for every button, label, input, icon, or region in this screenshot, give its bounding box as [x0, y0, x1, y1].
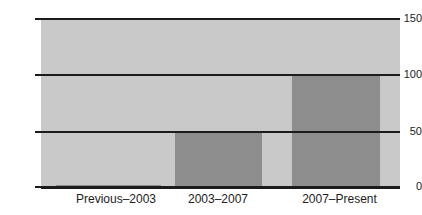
gridline-50	[41, 131, 400, 133]
xlabel-2007-present: 2007–Present	[282, 192, 397, 206]
bar-2003-2007	[175, 132, 262, 188]
ytick-mark-50	[35, 131, 41, 133]
xlabel-2003-2007: 2003–2007	[168, 192, 268, 206]
ytick-mark-100	[35, 74, 41, 76]
ytick-label-50: 50	[388, 126, 422, 137]
gridline-100	[41, 74, 400, 76]
xlabel-previous-2003: Previous–2003	[56, 192, 176, 206]
ytick-label-150: 150	[388, 13, 422, 24]
plot-area	[41, 19, 400, 188]
gridline-0-baseline	[41, 186, 400, 189]
ytick-label-100: 100	[388, 69, 422, 80]
ytick-mark-150	[35, 18, 41, 20]
ytick-mark-0	[35, 186, 41, 188]
ytick-label-0: 0	[388, 181, 422, 192]
bar-chart: 150 100 50 0 Previous–2003 2003–2007 200…	[0, 0, 422, 215]
gridline-150	[41, 18, 400, 20]
